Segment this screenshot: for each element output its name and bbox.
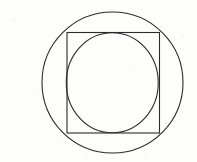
figure-svg: Circle inscribed in a square inscribed i… [0, 0, 197, 162]
inner-circle-shape [66, 33, 158, 133]
geometric-figure-canvas: Circle inscribed in a square inscribed i… [0, 0, 197, 162]
